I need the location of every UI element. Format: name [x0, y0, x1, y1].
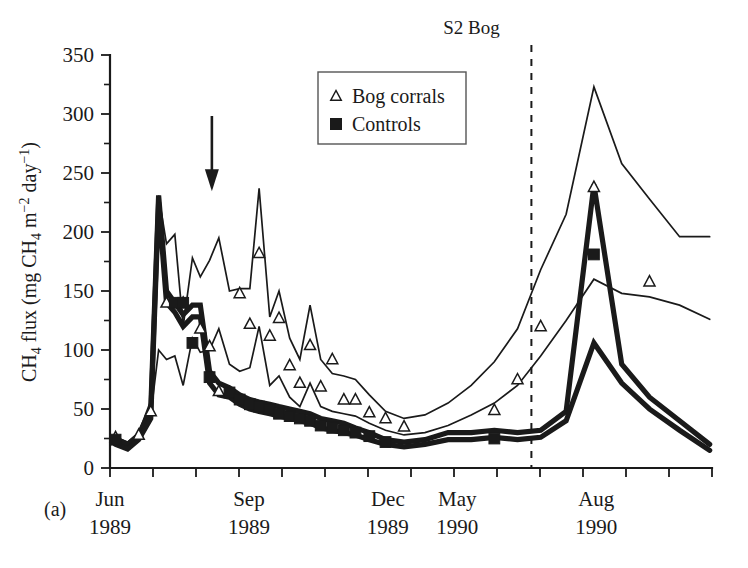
marker-bog-corral: [254, 247, 265, 257]
y-axis-tick-label: 200: [63, 220, 95, 244]
series-line-2: [116, 185, 710, 445]
chart-svg: 050100150200250300350Jun1989Sep1989Dec19…: [0, 0, 748, 568]
marker-bog-corral: [294, 377, 305, 387]
legend-marker-controls: [331, 119, 342, 130]
marker-control: [224, 387, 235, 398]
marker-bog-corral: [399, 421, 410, 431]
marker-control: [364, 431, 375, 442]
legend-label-controls: Controls: [352, 113, 421, 135]
marker-control: [294, 413, 305, 424]
marker-control: [338, 425, 349, 436]
marker-control: [489, 433, 500, 444]
marker-control: [254, 401, 265, 412]
marker-control: [204, 372, 215, 383]
marker-bog-corral: [512, 374, 523, 384]
legend-label-bog-corrals: Bog corrals: [352, 85, 445, 108]
marker-control: [274, 408, 285, 419]
treatment-arrow-head: [205, 169, 219, 191]
marker-bog-corral: [338, 394, 349, 404]
y-axis-tick-label: 0: [84, 456, 95, 480]
marker-control: [284, 411, 295, 422]
x-axis-tick-label-month: Dec: [371, 487, 405, 511]
marker-bog-corral: [380, 412, 391, 422]
y-axis-tick-label: 250: [63, 161, 95, 185]
marker-bog-corral: [364, 407, 375, 417]
marker-control: [315, 420, 326, 431]
y-axis-tick-label: 50: [73, 397, 94, 421]
marker-control: [327, 422, 338, 433]
x-axis-tick-label-month: Sep: [233, 487, 265, 511]
marker-control: [178, 297, 189, 308]
y-axis-tick-label: 300: [63, 102, 95, 126]
marker-bog-corral: [327, 353, 338, 363]
marker-control: [234, 394, 245, 405]
marker-control: [187, 338, 198, 349]
marker-bog-corral: [264, 330, 275, 340]
y-axis-title: CH4 flux (mg CH4 m−2 day−1): [17, 142, 44, 382]
y-axis-tick-label: 350: [63, 43, 95, 67]
marker-bog-corral: [350, 394, 361, 404]
y-axis-tick-label: 100: [63, 338, 95, 362]
y-axis-tick-label: 150: [63, 279, 95, 303]
marker-bog-corral: [244, 318, 255, 328]
x-axis-tick-label-year: 1990: [436, 515, 478, 539]
marker-control: [305, 415, 316, 426]
marker-bog-corral: [588, 181, 599, 191]
panel-label: (a): [44, 498, 66, 521]
x-axis-tick-label-year: 1990: [575, 515, 617, 539]
marker-bog-corral: [535, 320, 546, 330]
marker-bog-corral: [284, 359, 295, 369]
marker-bog-corral: [315, 381, 326, 391]
marker-bog-corral: [274, 312, 285, 322]
plot-title: S2 Bog: [443, 17, 500, 38]
marker-control: [380, 437, 391, 448]
marker-bog-corral: [644, 276, 655, 286]
x-axis-tick-label-year: 1989: [89, 515, 131, 539]
x-axis-tick-label-month: Jun: [95, 487, 125, 511]
marker-control: [110, 434, 121, 445]
marker-control: [589, 249, 600, 260]
x-axis-tick-label-month: May: [438, 487, 477, 511]
marker-bog-corral: [305, 339, 316, 349]
x-axis-tick-label-month: Aug: [578, 487, 615, 511]
x-axis-tick-label-year: 1989: [228, 515, 270, 539]
marker-control: [350, 427, 361, 438]
x-axis-tick-label-year: 1989: [367, 515, 409, 539]
figure-panel-a: 050100150200250300350Jun1989Sep1989Dec19…: [0, 0, 748, 568]
